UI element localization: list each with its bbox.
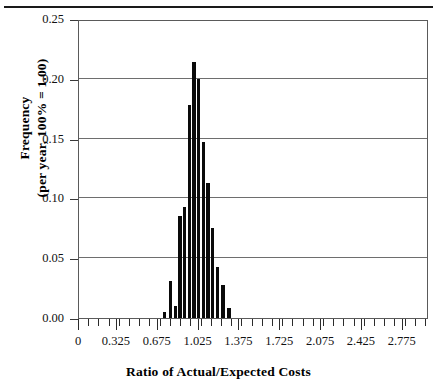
y-axis-title: Frequency (per year, 100% = 1.00) [16,18,56,238]
x-axis-minor-tick [119,319,120,326]
histogram-bar [188,105,191,318]
x-axis-minor-tick [190,319,191,326]
x-axis-minor-tick [149,319,150,326]
histogram-bar [183,207,186,318]
x-axis-minor-tick [282,319,283,326]
x-axis-minor-tick [384,319,385,326]
histogram-figure: 0.000.050.100.150.200.25 00.3250.6751.02… [0,0,437,388]
y-axis-title-line-1: Frequency [16,18,33,238]
x-axis-minor-tick [211,319,212,326]
x-axis-minor-tick [313,319,314,326]
x-axis-minor-tick [139,319,140,326]
x-axis-major-tick [279,319,280,330]
x-axis-major-tick [320,319,321,330]
x-axis-major-tick [78,319,79,330]
x-axis-tick-label: 2.775 [372,335,432,348]
x-axis-minor-tick [333,319,334,326]
x-axis-minor-tick [201,319,202,326]
y-axis-tick-label: 0.05 [4,252,64,264]
y-axis-title-line-2: (per year, 100% = 1.00) [33,18,50,238]
x-axis-minor-tick [323,319,324,326]
histogram-bar [206,183,209,318]
x-axis-minor-tick [231,319,232,326]
x-axis-major-tick [238,319,239,330]
x-axis-minor-tick [98,319,99,326]
histogram-bar [163,312,166,318]
histogram-bar [197,79,200,318]
x-axis-minor-tick [292,319,293,326]
x-axis-minor-tick [262,319,263,326]
histogram-bar [178,216,181,318]
y-axis-tick [70,80,78,81]
histogram-bar [202,142,205,318]
x-axis-major-tick [361,319,362,330]
x-axis-minor-tick [374,319,375,326]
x-axis-minor-tick [252,319,253,326]
x-axis-minor-tick [221,319,222,326]
top-divider-rule [4,6,433,8]
x-axis-minor-tick [364,319,365,326]
bar-series [79,21,427,318]
histogram-bar [174,306,177,318]
x-axis-major-tick [157,319,158,330]
x-axis-minor-tick [405,319,406,326]
histogram-bar [192,62,195,318]
histogram-bar [221,285,224,318]
x-axis-minor-tick [394,319,395,326]
x-axis-minor-tick [170,319,171,326]
y-axis-tick [70,199,78,200]
x-axis-major-tick [402,319,403,330]
y-axis-tick [70,140,78,141]
x-axis-title: Ratio of Actual/Expected Costs [0,364,437,380]
histogram-bar [211,228,214,318]
x-axis-minor-tick [241,319,242,326]
x-axis-minor-tick [129,319,130,326]
x-axis-major-tick [198,319,199,330]
x-axis-minor-tick [109,319,110,326]
x-axis-minor-tick [354,319,355,326]
histogram-bar [169,281,172,318]
x-axis-minor-tick [303,319,304,326]
x-axis-minor-tick [88,319,89,326]
y-axis-tick [70,259,78,260]
histogram-bar [216,267,219,318]
x-axis-minor-tick [272,319,273,326]
y-axis-tick [70,20,78,21]
y-axis-tick [70,319,78,320]
x-axis-minor-tick [160,319,161,326]
y-axis-tick-label: 0.00 [4,312,64,324]
plot-area [78,20,428,319]
x-axis-major-tick [116,319,117,330]
x-axis-minor-tick [425,319,426,326]
x-axis-minor-tick [343,319,344,326]
x-axis-minor-tick [415,319,416,326]
x-axis-minor-tick [180,319,181,326]
histogram-bar [227,308,230,318]
